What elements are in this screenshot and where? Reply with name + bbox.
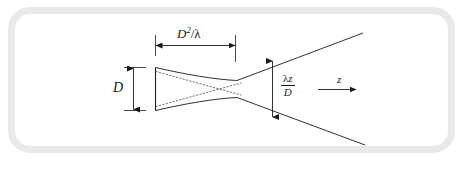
dotted-ray-lower bbox=[156, 83, 241, 107]
label-aperture-size: D bbox=[113, 81, 123, 95]
near-field-base: D bbox=[177, 26, 186, 41]
figure-root: D2/λ D λz D z bbox=[0, 0, 475, 169]
label-axis-z: z bbox=[337, 74, 341, 85]
label-far-field-width: λz D bbox=[281, 73, 295, 98]
lower-beam-envelope bbox=[156, 98, 366, 146]
beam-divergence-diagram bbox=[0, 0, 475, 169]
far-field-numerator: λz bbox=[281, 73, 295, 86]
near-field-lambda: λ bbox=[194, 26, 200, 41]
far-field-z: z bbox=[288, 72, 292, 84]
dotted-ray-upper bbox=[156, 72, 241, 96]
far-field-denominator: D bbox=[281, 86, 295, 98]
label-near-field-length: D2/λ bbox=[177, 26, 201, 40]
